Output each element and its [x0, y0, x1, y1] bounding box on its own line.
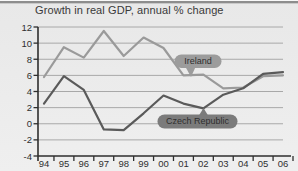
y-axis-labels-group: 121086420-2-4	[21, 22, 38, 162]
y-tick-label: 10	[21, 38, 32, 49]
x-tick-label: 99	[138, 158, 149, 169]
x-tick-label: 96	[79, 158, 90, 169]
x-tick-label: 02	[198, 158, 209, 169]
y-tick-label: -2	[24, 134, 32, 145]
x-axis-labels-group: 94959697989900010203040506	[39, 158, 289, 169]
x-tick-label: 98	[118, 158, 129, 169]
x-tick-label: 97	[98, 158, 109, 169]
chart-panel: Growth in real GDP, annual % change 1210…	[0, 0, 298, 171]
y-tick-label: 2	[27, 102, 32, 113]
czech-republic-label-bubble: Czech Republic	[158, 108, 238, 129]
y-tick-label: 0	[27, 118, 32, 129]
x-tick-label: 06	[278, 158, 289, 169]
y-tick-label: 6	[27, 70, 32, 81]
y-tick-label: 8	[27, 54, 32, 65]
y-tick-label: 12	[21, 22, 32, 33]
y-tick-label: 4	[27, 86, 32, 97]
x-tick-label: 00	[158, 158, 169, 169]
x-tick-label: 05	[258, 158, 269, 169]
axes-group	[38, 27, 293, 161]
x-tick-label: 94	[39, 158, 50, 169]
x-tick-label: 03	[218, 158, 229, 169]
x-tick-label: 95	[59, 158, 70, 169]
x-tick-label: 01	[178, 158, 189, 169]
czech-bubble-label: Czech Republic	[166, 116, 230, 126]
gdp-line-chart: 121086420-2-4 94959697989900010203040506…	[0, 0, 298, 171]
y-tick-label: -4	[24, 151, 32, 162]
x-tick-label: 04	[238, 158, 249, 169]
ireland-bubble-label: Ireland	[184, 56, 212, 66]
